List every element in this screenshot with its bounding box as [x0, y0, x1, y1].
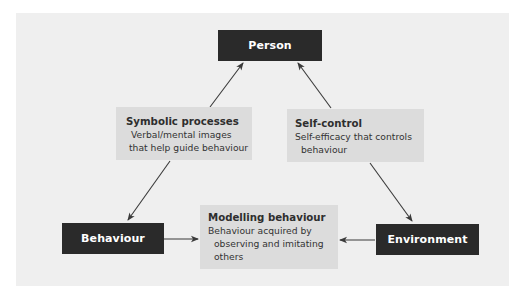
node-behaviour-label: Behaviour	[81, 232, 145, 245]
process-symbolic-title: Symbolic processes	[126, 115, 252, 128]
node-environment-label: Environment	[387, 233, 467, 246]
process-modelling-line-1: Behaviour acquired by	[208, 224, 338, 237]
node-behaviour: Behaviour	[62, 223, 164, 254]
node-environment: Environment	[376, 224, 479, 255]
process-self-control: Self-control Self-efficacy that controls…	[287, 109, 424, 162]
process-modelling-line-2: observing and imitating	[208, 237, 338, 250]
diagram-canvas: Person Behaviour Environment Symbolic pr…	[0, 0, 509, 295]
node-person: Person	[218, 30, 322, 61]
process-modelling-title: Modelling behaviour	[208, 211, 338, 224]
node-person-label: Person	[248, 39, 291, 52]
process-modelling: Modelling behaviour Behaviour acquired b…	[200, 205, 338, 269]
process-modelling-line-3: others	[208, 250, 338, 263]
process-symbolic-line-2: that help guide behaviour	[126, 141, 252, 154]
process-self-control-line-2: behaviour	[295, 143, 424, 156]
process-symbolic: Symbolic processes Verbal/mental images …	[116, 107, 252, 160]
process-symbolic-line-1: Verbal/mental images	[126, 128, 252, 141]
process-self-control-line-1: Self-efficacy that controls	[295, 130, 424, 143]
process-self-control-title: Self-control	[295, 117, 424, 130]
